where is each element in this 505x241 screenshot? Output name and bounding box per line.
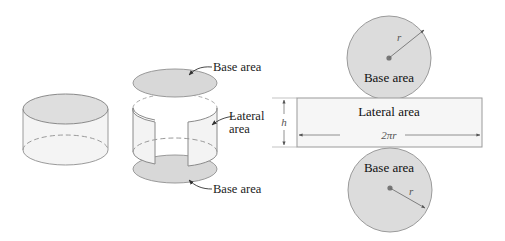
label-lateral-line2: area [229, 122, 250, 136]
top-radius-label: r [397, 31, 402, 43]
lateral-area-label: Lateral area [358, 104, 420, 119]
label-lateral-line1: Lateral [229, 109, 265, 123]
label-top-base-area: Base area [213, 60, 262, 74]
circumference-label: 2πr [381, 129, 397, 141]
label-bottom-base-area: Base area [213, 182, 262, 196]
bottom-circle-label: Base area [364, 160, 414, 175]
top-base-disc [133, 69, 217, 97]
top-circle-label: Base area [364, 70, 414, 85]
bottom-radius-label: r [409, 185, 414, 197]
solid-cylinder [23, 94, 108, 165]
cylinder-net: r Base area Lateral area 2πr h r Base ar… [272, 16, 482, 232]
exploded-cylinder: Base area Lateral area Base area [133, 60, 265, 196]
height-label: h [281, 116, 287, 128]
cylinder-diagram: Base area Lateral area Base area r Base … [0, 0, 505, 241]
